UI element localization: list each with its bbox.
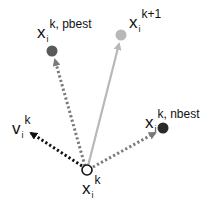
label-base: x xyxy=(129,13,138,32)
label-base: x xyxy=(37,23,46,42)
label-pbest: xik, pbest xyxy=(37,24,92,41)
label-next: xik+1 xyxy=(129,14,161,31)
label-sub: i xyxy=(139,24,141,34)
label-velocity: vik xyxy=(12,120,31,137)
diagram-canvas xyxy=(0,0,209,208)
current-point xyxy=(82,165,92,175)
label-sup: k, nbest xyxy=(158,107,200,121)
pbest-arrow xyxy=(55,60,85,166)
label-base: x xyxy=(82,179,91,198)
label-current: xik xyxy=(82,180,101,197)
label-sup: k+1 xyxy=(142,7,162,21)
label-sup: k xyxy=(25,113,31,127)
label-sup: k xyxy=(95,173,101,187)
label-sub: i xyxy=(155,124,157,134)
label-sub: i xyxy=(22,130,24,140)
pbest-point xyxy=(47,46,58,57)
label-nbest: xik, nbest xyxy=(145,114,200,131)
velocity-arrow xyxy=(31,133,82,166)
next-point xyxy=(116,30,127,41)
update-arrow xyxy=(88,44,119,166)
label-sup: k, pbest xyxy=(50,17,92,31)
label-base: v xyxy=(12,119,21,138)
label-sub: i xyxy=(92,190,94,200)
label-sub: i xyxy=(47,34,49,44)
label-base: x xyxy=(145,113,154,132)
nbest-arrow xyxy=(93,133,155,167)
